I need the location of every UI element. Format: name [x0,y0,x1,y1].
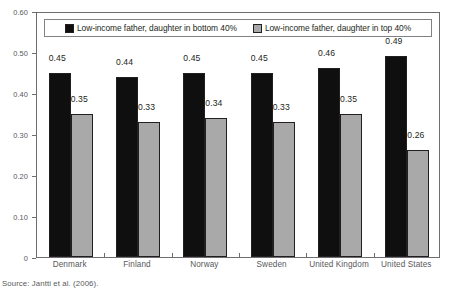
legend: Low-income father, daughter in bottom 40… [44,19,432,37]
y-tick-mark [32,258,36,259]
legend-swatch-icon [253,24,262,33]
y-tick-label: 0.30 [13,131,28,140]
bar-value-label: 0.26 [407,130,424,140]
bar-group: 0.440.33 [116,13,160,257]
x-tick-mark [239,253,240,258]
bar-value-label: 0.35 [340,94,357,104]
y-tick-label: 0 [24,254,28,263]
bar [273,122,295,257]
y-tick-label: 0.10 [13,213,28,222]
x-axis: DenmarkFinlandNorwaySwedenUnited Kingdom… [36,260,440,276]
source-note: Source: Jantti et al. (2006). [2,279,99,288]
y-tick-label: 0.40 [13,90,28,99]
bar [407,150,429,257]
y-tick-label: 0.60 [13,8,28,17]
bar [116,77,138,257]
bar-group: 0.490.26 [385,13,429,257]
x-category-label: Denmark [53,260,87,269]
bar-value-label: 0.46 [318,48,335,58]
bar-group: 0.450.35 [49,13,93,257]
bar [251,73,273,258]
x-category-label: United Kingdom [309,260,369,269]
legend-entry: Low-income father, daughter in top 40% [253,23,411,33]
bar-value-label: 0.34 [205,98,222,108]
legend-label: Low-income father, daughter in top 40% [265,23,411,33]
bar-value-label: 0.45 [251,53,268,63]
x-category-label: United States [381,260,431,269]
bar-value-label: 0.45 [49,53,66,63]
bar [340,114,362,258]
bar-value-label: 0.35 [71,94,88,104]
bar [205,118,227,257]
x-tick-mark [172,253,173,258]
y-tick-label: 0.20 [13,172,28,181]
bar [318,68,340,257]
bar [138,122,160,257]
x-category-label: Sweden [257,260,287,269]
x-category-label: Norway [190,260,218,269]
bar-group: 0.450.34 [183,13,227,257]
bar-group: 0.460.35 [318,13,362,257]
bar [49,73,71,258]
bar-value-label: 0.49 [385,36,402,46]
x-category-label: Finland [123,260,151,269]
figure: 00.100.200.300.400.500.60 0.450.350.440.… [0,0,451,296]
legend-label: Low-income father, daughter in bottom 40… [77,23,237,33]
plot-area: 0.450.350.440.330.450.340.450.330.460.35… [36,12,440,258]
legend-entry: Low-income father, daughter in bottom 40… [65,23,237,33]
x-tick-mark [306,253,307,258]
bar-value-label: 0.33 [273,102,290,112]
bar-group: 0.450.33 [251,13,295,257]
bar-value-label: 0.33 [138,102,155,112]
y-tick-label: 0.50 [13,49,28,58]
legend-swatch-icon [65,24,74,33]
bar [183,73,205,258]
bar [71,114,93,258]
bar [385,56,407,257]
x-tick-mark [374,253,375,258]
y-axis: 00.100.200.300.400.500.60 [0,0,36,296]
bar-value-label: 0.44 [116,57,133,67]
bar-value-label: 0.45 [183,53,200,63]
x-tick-mark [104,253,105,258]
